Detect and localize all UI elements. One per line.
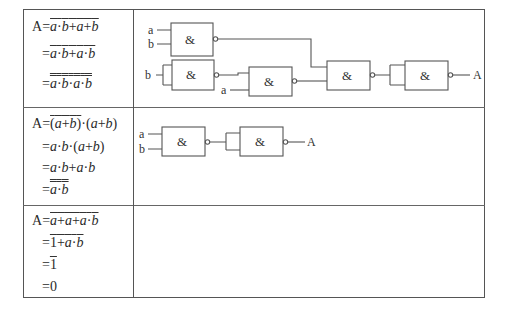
inverter-bubble [448,73,452,77]
input-label-b: b [145,68,151,82]
inverter-bubble [213,37,217,41]
wire-gate1-gate4 [218,39,327,67]
gate-symbol-and: & [177,134,187,149]
logic-circuits: a b b a A & & & & & a b A & & [0,0,507,315]
inverter-bubble [292,79,296,83]
gate-symbol-and: & [420,68,430,83]
wire-gate4-gate5 [375,65,405,85]
input-label-a: a [139,127,145,141]
input-label-b: b [139,142,145,156]
wire-inputs-gate-6 [148,134,162,149]
gate-symbol-and: & [255,134,265,149]
inverter-bubble [214,73,218,77]
inverter-bubble [205,140,209,144]
inverter-bubble [283,140,287,144]
input-label-a: a [148,23,154,37]
output-label-A: A [473,68,482,82]
gate-symbol-and: & [264,74,274,89]
input-label-b: b [148,37,154,51]
input-label-a: a [221,83,227,97]
wire-gate6-gate7 [210,133,240,150]
inverter-bubble [370,73,374,77]
circuit-row-2 [148,127,305,156]
gate-symbol-and: & [185,32,195,47]
output-label-A: A [307,135,316,149]
wire-inputs-gate-2 [156,65,172,85]
wire-gate2-gate3 [219,73,249,75]
gate-symbol-and: & [342,68,352,83]
gate-symbol-and: & [186,67,196,82]
wire-inputs-gate-1 [157,30,171,44]
circuit-row-1 [156,23,470,96]
